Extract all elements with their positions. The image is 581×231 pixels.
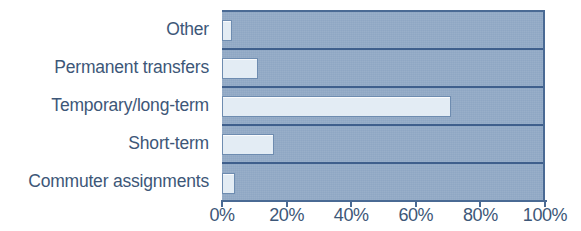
x-tick-label-40: 40% bbox=[334, 205, 369, 226]
bar-row-temporary-long-term bbox=[222, 88, 543, 126]
category-label-permanent-transfers: Permanent transfers bbox=[0, 48, 216, 86]
bar-commuter-assignments bbox=[222, 173, 235, 194]
category-axis-labels: Other Permanent transfers Temporary/long… bbox=[0, 10, 216, 200]
bar-row-commuter-assignments bbox=[222, 164, 543, 200]
category-label-short-term: Short-term bbox=[0, 124, 216, 162]
bar-short-term bbox=[222, 134, 274, 155]
category-label-temporary-long-term: Temporary/long-term bbox=[0, 86, 216, 124]
bar-row-other bbox=[222, 12, 543, 50]
bar-temporary-long-term bbox=[222, 96, 451, 117]
x-axis-tick-labels: 0%20%40%60%80%100% bbox=[222, 205, 545, 231]
category-label-other: Other bbox=[0, 10, 216, 48]
bar-row-short-term bbox=[222, 126, 543, 164]
bar-permanent-transfers bbox=[222, 58, 258, 79]
plot-area bbox=[222, 10, 545, 200]
category-label-commuter-assignments: Commuter assignments bbox=[0, 162, 216, 200]
x-tick-label-20: 20% bbox=[269, 205, 304, 226]
x-tick-label-60: 60% bbox=[398, 205, 433, 226]
x-tick-label-0: 0% bbox=[209, 205, 234, 226]
bar-row-permanent-transfers bbox=[222, 50, 543, 88]
x-tick-label-100: 100% bbox=[523, 205, 567, 226]
x-tick-label-80: 80% bbox=[463, 205, 498, 226]
horizontal-bar-chart: Other Permanent transfers Temporary/long… bbox=[0, 0, 581, 231]
bar-other bbox=[222, 20, 232, 41]
